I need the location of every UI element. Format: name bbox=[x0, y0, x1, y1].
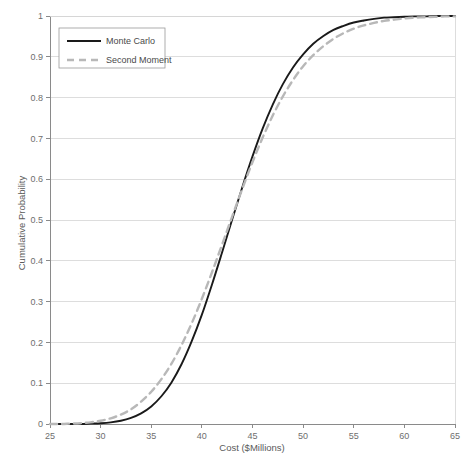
y-tick-label: 0 bbox=[38, 419, 43, 429]
y-axis-title: Cumulative Probability bbox=[16, 175, 27, 270]
y-tick-label: 0.5 bbox=[30, 215, 43, 225]
x-tick-label: 40 bbox=[197, 431, 207, 441]
x-tick-label: 30 bbox=[96, 431, 106, 441]
y-tick-label: 0.3 bbox=[30, 297, 43, 307]
gridlines-group bbox=[50, 16, 455, 383]
legend-label-monte-carlo: Monte Carlo bbox=[106, 36, 155, 46]
y-tick-label: 0.8 bbox=[30, 93, 43, 103]
y-tick-label: 0.1 bbox=[30, 378, 43, 388]
y-tick-labels-group: 00.10.20.30.40.50.60.70.80.91 bbox=[30, 11, 43, 429]
x-tick-labels-group: 253035404550556065 bbox=[45, 431, 460, 441]
y-tick-label: 0.6 bbox=[30, 174, 43, 184]
x-tick-label: 35 bbox=[146, 431, 156, 441]
x-tick-label: 60 bbox=[399, 431, 409, 441]
y-tick-label: 0.4 bbox=[30, 256, 43, 266]
x-tick-label: 25 bbox=[45, 431, 55, 441]
y-tick-label: 1 bbox=[38, 11, 43, 21]
y-tick-label: 0.7 bbox=[30, 134, 43, 144]
cdf-chart: 253035404550556065 00.10.20.30.40.50.60.… bbox=[0, 0, 470, 465]
x-tick-label: 65 bbox=[450, 431, 460, 441]
x-tick-label: 45 bbox=[247, 431, 257, 441]
x-axis-title: Cost ($Millions) bbox=[219, 442, 284, 453]
x-tick-label: 55 bbox=[349, 431, 359, 441]
chart-canvas: 253035404550556065 00.10.20.30.40.50.60.… bbox=[0, 0, 470, 465]
x-tick-label: 50 bbox=[298, 431, 308, 441]
y-tick-label: 0.2 bbox=[30, 338, 43, 348]
legend-group: Monte CarloSecond Moment bbox=[59, 28, 172, 68]
legend-label-second-moment: Second Moment bbox=[106, 55, 172, 65]
y-tick-label: 0.9 bbox=[30, 52, 43, 62]
tick-marks-group bbox=[46, 16, 455, 428]
